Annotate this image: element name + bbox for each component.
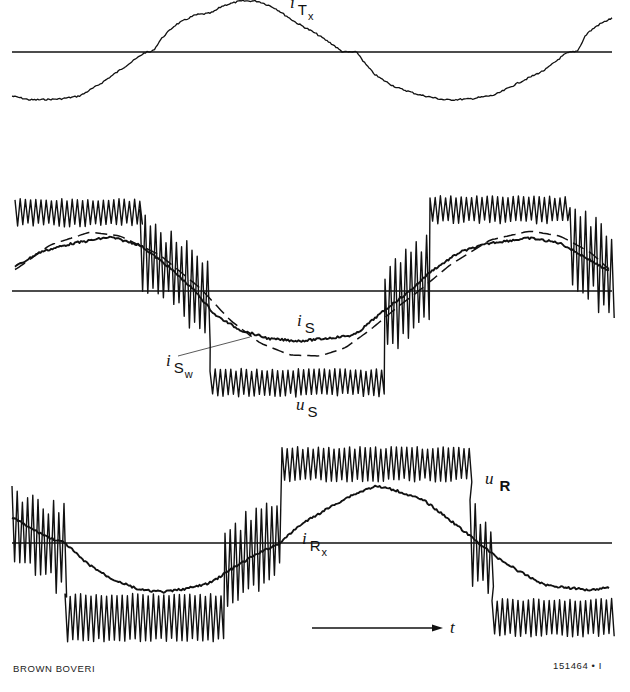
time-arrow-icon	[312, 625, 443, 632]
label-u-r: uR	[485, 470, 510, 487]
label-time: t	[450, 619, 455, 636]
label-u-s: uS	[296, 396, 318, 413]
footer-publisher: BROWN BOVERI	[13, 663, 95, 674]
label-i-tx: iTx	[290, 0, 313, 11]
footer-figure-number: 151464 • I	[553, 660, 602, 671]
panel-stator	[12, 196, 614, 397]
label-i-s: iS	[297, 312, 315, 329]
label-i-rx: iRx	[302, 530, 327, 547]
trace-i-sw	[15, 231, 609, 356]
oscillogram-figure	[0, 0, 630, 692]
trace-u-s	[15, 196, 614, 397]
label-i-sw: iSw	[166, 352, 193, 369]
